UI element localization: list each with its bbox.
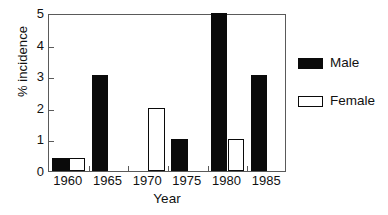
bar-male-1965 xyxy=(92,75,108,171)
bar-female-1980 xyxy=(228,139,244,171)
x-axis-tick-label: 1970 xyxy=(127,174,167,188)
x-axis-tick-label: 1985 xyxy=(246,174,286,188)
bar-male-1985 xyxy=(251,75,267,171)
x-axis-tick-label: 1975 xyxy=(167,174,207,188)
legend-item-female: Female xyxy=(298,94,388,108)
x-axis-title: Year xyxy=(48,191,286,206)
y-axis-tick xyxy=(49,110,54,111)
y-axis-tick-label: 0 xyxy=(28,165,44,178)
legend-label-female: Female xyxy=(330,94,375,108)
x-axis-tick xyxy=(168,166,169,171)
bar-male-1960 xyxy=(52,158,68,171)
bar-chart-figure: % incidence 012345 196019651970197519801… xyxy=(0,0,388,215)
bar-female-1960 xyxy=(69,158,85,171)
x-axis-tick-labels: 196019651970197519801985 xyxy=(48,174,286,190)
plot-area xyxy=(48,14,286,172)
x-axis-tick xyxy=(247,166,248,171)
x-axis-tick xyxy=(208,166,209,171)
chart-legend: Male Female xyxy=(298,56,388,132)
bar-male-1975 xyxy=(171,139,187,171)
y-axis-tick-label: 3 xyxy=(28,70,44,83)
bar-male-1980 xyxy=(211,13,227,171)
bar-female-1970 xyxy=(148,108,164,171)
legend-swatch-female-icon xyxy=(298,96,323,107)
x-axis-tick-label: 1980 xyxy=(207,174,247,188)
y-axis-tick xyxy=(49,47,54,48)
legend-label-male: Male xyxy=(330,56,359,70)
y-axis-tick-label: 4 xyxy=(28,39,44,52)
y-axis-tick-label: 2 xyxy=(28,102,44,115)
y-axis-tick xyxy=(49,78,54,79)
y-axis-tick xyxy=(49,141,54,142)
y-axis-tick-label: 1 xyxy=(28,133,44,146)
bar-series-container xyxy=(49,15,285,171)
x-axis-tick xyxy=(89,166,90,171)
y-axis-tick-label: 5 xyxy=(28,7,44,20)
x-axis-tick-label: 1960 xyxy=(48,174,88,188)
x-axis-tick-label: 1965 xyxy=(88,174,128,188)
y-axis-tick-labels: 012345 xyxy=(26,0,44,215)
x-axis-tick xyxy=(128,166,129,171)
legend-swatch-male-icon xyxy=(298,58,323,69)
legend-item-male: Male xyxy=(298,56,388,70)
